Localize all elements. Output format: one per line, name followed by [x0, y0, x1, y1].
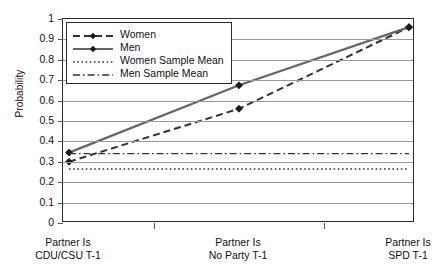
y-tick-label: 1 — [24, 13, 54, 23]
y-tick-mark — [58, 223, 63, 224]
x-category-label-line: No Party T-1 — [178, 249, 298, 262]
y-tick-label: 0.3 — [24, 156, 54, 166]
y-tick-label: 0.7 — [24, 74, 54, 84]
x-category-label: Partner IsCDU/CSU T-1 — [8, 236, 128, 262]
legend-label: Men Sample Mean — [120, 67, 208, 79]
legend-item: Women — [72, 27, 224, 40]
x-category-label-line: Partner Is — [178, 236, 298, 249]
x-axis-category-labels: Partner IsCDU/CSU T-1Partner IsNo Party … — [62, 236, 414, 276]
y-tick-label: 0.4 — [24, 135, 54, 145]
y-tick-mark — [58, 121, 63, 122]
x-category-label-line: Partner Is — [8, 236, 128, 249]
chart-legend: WomenMenWomen Sample MeanMen Sample Mean — [66, 22, 232, 84]
legend-swatch — [72, 54, 114, 66]
y-tick-label: 0.9 — [24, 33, 54, 43]
y-tick-mark — [58, 39, 63, 40]
x-tick-mark — [324, 223, 325, 229]
legend-swatch — [72, 28, 114, 40]
gridline — [63, 121, 413, 122]
x-category-label-line: Partner Is — [348, 236, 435, 249]
x-tick-mark — [154, 223, 155, 229]
y-tick-label: 0 — [24, 217, 54, 227]
x-category-label-line: SPD T-1 — [348, 249, 435, 262]
gridline — [63, 141, 413, 142]
legend-item: Men Sample Mean — [72, 66, 224, 79]
data-point-marker — [236, 105, 243, 112]
y-tick-mark — [58, 101, 63, 102]
data-point-marker — [236, 82, 243, 89]
legend-label: Women Sample Mean — [120, 54, 224, 66]
y-tick-label: 0.1 — [24, 197, 54, 207]
y-tick-label: 0.6 — [24, 95, 54, 105]
gridline — [63, 101, 413, 102]
y-tick-mark — [58, 80, 63, 81]
x-category-label-line: CDU/CSU T-1 — [8, 249, 128, 262]
gridline — [63, 203, 413, 204]
y-tick-mark — [58, 19, 63, 20]
x-category-label: Partner IsSPD T-1 — [348, 236, 435, 262]
legend-swatch — [72, 41, 114, 53]
y-tick-mark — [58, 141, 63, 142]
y-tick-label: 0.8 — [24, 54, 54, 64]
legend-item: Men — [72, 40, 224, 53]
y-tick-label: 0.5 — [24, 115, 54, 125]
legend-label: Women — [120, 28, 156, 40]
data-point-marker — [66, 149, 73, 156]
y-tick-mark — [58, 60, 63, 61]
y-tick-mark — [58, 203, 63, 204]
legend-swatch — [72, 67, 114, 79]
gridline — [63, 162, 413, 163]
x-category-label: Partner IsNo Party T-1 — [178, 236, 298, 262]
data-point-marker — [406, 24, 413, 31]
y-tick-mark — [58, 182, 63, 183]
y-tick-mark — [58, 162, 63, 163]
gridline — [63, 182, 413, 183]
y-tick-label: 0.2 — [24, 176, 54, 186]
legend-item: Women Sample Mean — [72, 53, 224, 66]
legend-label: Men — [120, 41, 140, 53]
